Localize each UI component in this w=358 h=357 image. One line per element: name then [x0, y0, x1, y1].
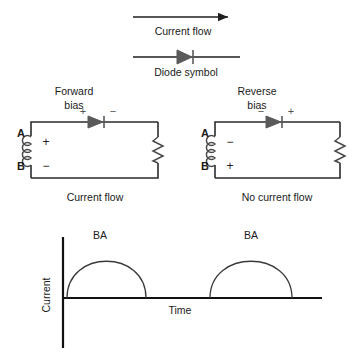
diode-triangle-icon	[177, 50, 192, 64]
reverse-source-sign-top: −	[226, 135, 233, 149]
reverse-terminal-a-label: A	[201, 127, 209, 139]
reverse-diode-sign-left: −	[258, 105, 264, 117]
forward-diode-sign-left: +	[80, 105, 86, 117]
forward-wire-bottom	[31, 163, 158, 178]
chart-annotation-1: BA	[93, 229, 107, 241]
legend-diode-symbol: Diode symbol	[133, 50, 240, 78]
current-vs-time-chart: BA BA Current Time	[40, 229, 322, 348]
forward-diode-sign-right: −	[110, 105, 116, 117]
reverse-terminal-b-label: B	[201, 160, 209, 172]
forward-bias-title-line1: Forward	[55, 85, 94, 97]
forward-terminal-b-label: B	[17, 160, 25, 172]
diode-rectification-figure: Current flow Diode symbol Forward bias A…	[0, 0, 358, 357]
reverse-bias-title-line1: Reverse	[237, 85, 276, 97]
circuit-reverse-bias: Reverse bias A B − + − + No current flow	[201, 85, 345, 203]
chart-y-axis-label: Current	[40, 277, 52, 312]
chart-pulse-2	[210, 261, 292, 298]
legend-current-flow: Current flow	[133, 17, 228, 37]
reverse-diode-triangle-icon	[266, 116, 281, 128]
forward-diode-triangle-icon	[88, 116, 103, 128]
forward-load-resistor	[153, 137, 163, 163]
forward-terminal-a-label: A	[17, 127, 25, 139]
reverse-bias-caption: No current flow	[242, 191, 313, 203]
figure-svg: Current flow Diode symbol Forward bias A…	[0, 0, 358, 357]
reverse-load-resistor	[335, 137, 345, 163]
reverse-wire-top	[215, 122, 340, 136]
reverse-diode-sign-right: +	[288, 105, 294, 117]
circuit-forward-bias: Forward bias A B + − + −	[17, 85, 163, 203]
reverse-diode	[266, 116, 282, 128]
reverse-wire-bottom	[215, 163, 340, 178]
chart-annotation-2: BA	[244, 229, 258, 241]
forward-diode	[88, 116, 104, 128]
forward-source-sign-bottom: −	[42, 159, 49, 173]
forward-source-sign-top: +	[42, 135, 49, 149]
forward-bias-caption: Current flow	[67, 191, 124, 203]
current-flow-legend-label: Current flow	[155, 25, 212, 37]
chart-pulse-1	[67, 261, 146, 298]
diode-symbol-legend-label: Diode symbol	[154, 66, 218, 78]
chart-x-axis-label: Time	[169, 304, 192, 316]
reverse-source-sign-bottom: +	[226, 159, 233, 173]
